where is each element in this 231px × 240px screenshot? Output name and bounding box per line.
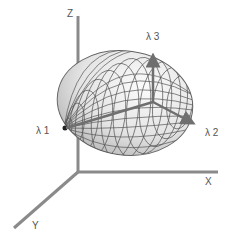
z-axis-label: Z (67, 8, 73, 19)
ellipsoid (50, 42, 199, 166)
lambda2-label: λ 2 (205, 127, 219, 138)
x-axis-label: X (205, 176, 212, 187)
ellipsoid-diagram: Z X Y λ 1 λ 2 λ 3 (0, 0, 231, 240)
lambda1-label: λ 1 (36, 125, 50, 136)
y-axis (14, 172, 78, 228)
lambda3-label: λ 3 (146, 31, 160, 42)
y-axis-label: Y (32, 220, 39, 231)
